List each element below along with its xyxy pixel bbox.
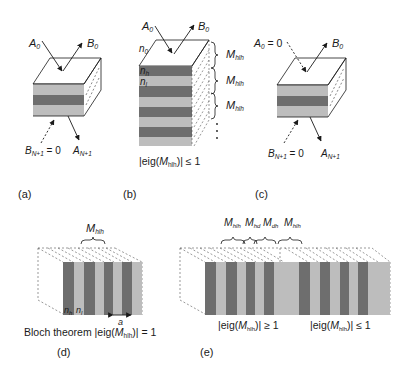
label-BN1: BN+1 = 0 bbox=[25, 145, 61, 157]
backward-arrow bbox=[41, 120, 54, 143]
label-AN1: AN+1 bbox=[72, 145, 92, 157]
panel-e: Mhlh Mhd Mdh Mhlh |eig(Mhlh)| ≥ 1 |eig(M… bbox=[180, 216, 390, 358]
brace bbox=[81, 237, 105, 244]
caption-b: (b) bbox=[123, 188, 136, 200]
transmitted-arrow bbox=[68, 116, 79, 140]
panel-b: A0 B0 n0 nh nl Mhlh Mhlh Mhlh |eig(Mhlh)… bbox=[123, 20, 244, 200]
eig-condition-right: |eig(Mhlh)| ≤ 1 bbox=[310, 319, 371, 332]
layer-light bbox=[33, 84, 84, 95]
label-M-hlh-1: Mhlh bbox=[226, 48, 244, 61]
brace bbox=[211, 93, 218, 119]
label-B0: B0 bbox=[87, 37, 98, 50]
label-A0-zero: A0 = 0 bbox=[253, 37, 283, 50]
label-M-hlh: Mhlh bbox=[86, 222, 104, 235]
label-BN1: BN+1 = 0 bbox=[268, 148, 304, 160]
slab-top-face bbox=[139, 40, 209, 66]
panel-c: A0 = 0 B0 BN+1 = 0 AN+1 (c) bbox=[253, 37, 346, 200]
multilayer-diagram: A0 B0 BN+1 = 0 AN+1 (a) bbox=[0, 0, 401, 371]
label-M-hlh-left: Mhlh bbox=[224, 216, 241, 229]
panel-a: A0 B0 BN+1 = 0 AN+1 (a) bbox=[18, 37, 101, 200]
eig-condition-b: |eig(Mhlh)| ≤ 1 bbox=[139, 155, 201, 168]
label-M-hd: Mhd bbox=[245, 216, 261, 229]
slab-top-face bbox=[33, 58, 101, 84]
brace bbox=[211, 42, 218, 68]
label-B0: B0 bbox=[198, 20, 209, 33]
label-M-hlh-2: Mhlh bbox=[226, 74, 244, 87]
eig-condition-left: |eig(Mhlh)| ≥ 1 bbox=[218, 319, 279, 332]
layer-light bbox=[33, 105, 84, 116]
label-B0: B0 bbox=[332, 37, 343, 50]
caption-e: (e) bbox=[200, 346, 213, 358]
label-A0: A0 bbox=[141, 20, 153, 33]
panel-d: Mhlh nh nl a Bloch theorem |eig(Mhlh)| =… bbox=[24, 222, 156, 358]
label-A0: A0 bbox=[28, 37, 40, 50]
label-M-hlh-3: Mhlh bbox=[226, 99, 244, 112]
label-M-hlh-right: Mhlh bbox=[284, 216, 301, 229]
layer-dark bbox=[33, 95, 84, 105]
caption-a: (a) bbox=[18, 188, 31, 200]
caption-c: (c) bbox=[255, 188, 268, 200]
caption-d: (d) bbox=[57, 346, 70, 358]
brace bbox=[211, 68, 218, 94]
label-M-dh: Mdh bbox=[263, 216, 279, 229]
bloch-theorem-label: Bloch theorem |eig(Mhlh)| = 1 bbox=[24, 326, 156, 339]
label-AN1: AN+1 bbox=[320, 148, 340, 160]
label-n0: n0 bbox=[139, 43, 149, 55]
